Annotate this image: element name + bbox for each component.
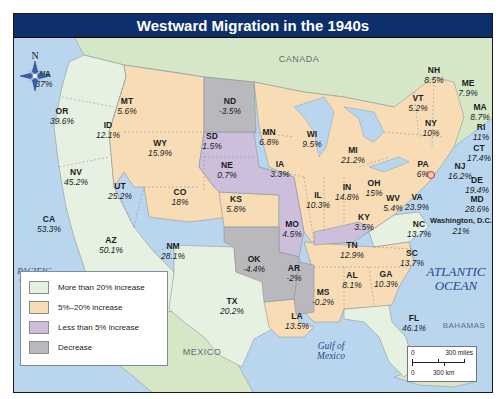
state-label-me: ME7.9% [458,78,477,98]
state-label-ga: GA10.3% [374,269,398,289]
state-label-in: IN14.8% [335,182,359,202]
compass-star-icon [20,61,50,91]
state-label-co: CO18% [171,187,188,207]
state-label-nc: NC13.7% [407,219,431,239]
legend-swatch-gray [29,341,49,354]
legend-item-5-to-20: 5%–20% increase [29,301,122,314]
state-label-vt: VT5.2% [408,93,427,113]
state-label-sd: SD1.5% [202,131,221,151]
legend-item-more-than-20: More than 20% increase [29,281,145,294]
map-title: Westward Migration in the 1940s [137,17,369,34]
state-label-nh: NH8.5% [424,65,443,85]
scale-bar: 0 300 miles 0 300 km [407,346,477,382]
state-label-ne: NE0.7% [217,160,236,180]
state-label-ms: MS-0.2% [312,287,334,307]
state-label-nm: NM28.1% [161,241,185,261]
compass-north-label: N [20,50,50,61]
state-label-ky: KY3.5% [354,212,373,232]
dc-marker-icon [427,171,435,179]
state-label-wi: WI9.5% [302,129,321,149]
label-bahamas: BAHAMAS [443,321,486,330]
label-atlantic-ocean: ATLANTIC OCEAN [427,265,486,292]
state-label-la: LA13.5% [285,311,309,331]
title-bar: Westward Migration in the 1940s [14,14,492,38]
state-label-sc: SC13.7% [400,248,424,268]
state-label-ia: IA3.3% [270,159,289,179]
state-label-wy: WY15.9% [148,138,172,158]
state-label-mi: MI21.2% [341,145,365,165]
state-label-ny: NY10% [422,118,439,138]
state-label-il: IL10.3% [306,190,330,210]
state-label-ut: UT25.2% [108,181,132,201]
state-label-ma: MA8.7% [470,102,489,122]
state-label-nv: NV45.2% [64,167,88,187]
state-label-ok: OK-4.4% [243,254,265,274]
state-label-id: ID12.1% [96,120,120,140]
legend-item-decrease: Decrease [29,341,92,354]
legend-swatch-orange [29,301,49,314]
label-gulf-of-mexico: Gulf of Mexico [317,342,345,362]
state-label-ct: CT17.4% [467,143,491,163]
state-label-de: DE19.4% [465,175,489,195]
state-label-fl: FL46.1% [402,313,426,333]
state-label-md: MD28.6% [465,194,489,214]
state-label-va: VA23.9% [405,192,429,212]
state-label-wv: WV5.4% [383,193,402,213]
state-label-tn: TN12.9% [340,240,364,260]
state-label-mt: MT5.6% [117,96,136,116]
state-label-ca: CA53.3% [37,214,61,234]
legend-swatch-green [29,281,49,294]
legend: More than 20% increase 5%–20% increase L… [20,271,168,366]
state-label-ar: AR-2% [286,263,301,283]
label-canada: CANADA [279,54,320,64]
state-label-ri: RI11% [473,122,489,142]
legend-item-less-than-5: Less than 5% increase [29,321,139,334]
state-label-mn: MN6.8% [259,127,278,147]
state-label-az: AZ50.1% [99,235,123,255]
state-label-ks: KS5.8% [226,194,245,214]
state-label-dc: Washington, D.C.21% [430,216,492,236]
state-label-nd: ND-3.5% [219,96,241,116]
state-label-oh: OH15% [365,178,382,198]
legend-swatch-purple [29,321,49,334]
compass-rose: N [20,50,50,95]
state-label-al: AL8.1% [342,270,361,290]
state-label-mo: MO4.5% [282,219,301,239]
label-mexico: MEXICO [183,347,222,357]
map-frame: Westward Migration in the 1940s [13,13,493,393]
state-label-or: OR39.6% [50,106,74,126]
state-label-tx: TX20.2% [220,296,244,316]
